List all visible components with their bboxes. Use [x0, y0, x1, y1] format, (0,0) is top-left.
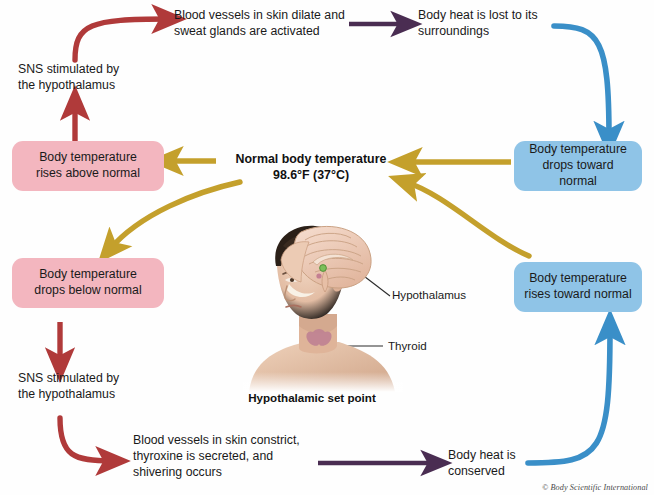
node-heat-conserved-line1: Body heat is	[448, 448, 516, 464]
node-temp-rises-toward-line1: Body temperature	[529, 271, 627, 287]
normal-temp-line2: 98.6°F (37°C)	[273, 167, 349, 183]
node-heat-conserve-line3: shivering occurs	[133, 465, 222, 481]
node-heat-loss-response-line1: Blood vessels in skin dilate and	[174, 8, 345, 24]
node-temp-rises-toward-normal: Body temperature rises toward normal	[514, 262, 642, 312]
node-sns-top: SNS stimulated by the hypothalamus	[18, 62, 158, 94]
normal-temp-line1: Normal body temperature	[236, 151, 387, 167]
arrow-sns-bottom-to-constrict	[60, 418, 112, 461]
node-heat-conserved: Body heat is conserved	[448, 448, 558, 480]
illustration-fade	[243, 342, 403, 392]
head-anatomy-illustration	[243, 222, 403, 392]
node-sns-top-line2: the hypothalamus	[18, 78, 115, 94]
node-temp-drops-below-line2: drops below normal	[34, 283, 141, 299]
label-thyroid: Thyroid	[388, 339, 478, 352]
label-hypothalamus-text: Hypothalamus	[392, 288, 466, 301]
node-heat-lost-line1: Body heat is lost to its	[418, 8, 538, 24]
node-heat-conserved-line2: conserved	[448, 464, 505, 480]
node-temp-drops-below-line1: Body temperature	[39, 267, 137, 283]
pituitary-shape	[316, 273, 321, 278]
illustration-caption: Hypothalamic set point	[222, 391, 402, 404]
arrow-heatconserved-to-temprise-toward	[528, 328, 610, 463]
node-temp-drops-below-normal: Body temperature drops below normal	[12, 258, 164, 308]
node-sns-bottom: SNS stimulated by the hypothalamus	[18, 371, 158, 403]
thermoregulation-diagram: SNS stimulated by the hypothalamus Blood…	[0, 0, 654, 495]
arrow-temprise-toward-to-normal	[406, 182, 529, 256]
node-heat-loss-response: Blood vessels in skin dilate and sweat g…	[174, 8, 352, 40]
node-sns-bottom-line1: SNS stimulated by	[18, 371, 119, 387]
illustration-caption-text: Hypothalamic set point	[248, 391, 376, 404]
node-heat-lost-line2: surroundings	[418, 24, 489, 40]
node-temp-rises-above-normal: Body temperature rises above normal	[12, 141, 164, 191]
node-temp-rises-toward-line2: rises toward normal	[524, 287, 631, 303]
node-heat-conserve-line2: thyroxine is secreted, and	[133, 449, 273, 465]
arrow-sns-to-dilate	[75, 19, 168, 60]
node-sns-bottom-line2: the hypothalamus	[18, 387, 115, 403]
node-heat-lost: Body heat is lost to its surroundings	[418, 8, 558, 40]
node-temp-rises-above-line2: rises above normal	[36, 166, 140, 182]
hypothalamus-highlight	[320, 265, 327, 272]
arrow-heatlost-to-tempdrop	[554, 26, 609, 138]
copyright-credit: © Body Scientific International	[542, 483, 648, 492]
node-temp-drops-toward-line1: Body temperature	[529, 142, 627, 158]
node-sns-top-line1: SNS stimulated by	[18, 62, 119, 78]
node-temp-drops-toward-normal: Body temperature drops toward normal	[514, 141, 642, 191]
node-heat-conserve-line1: Blood vessels in skin constrict,	[133, 433, 300, 449]
label-thyroid-text: Thyroid	[388, 339, 427, 352]
node-heat-conserve-response: Blood vessels in skin constrict, thyroxi…	[133, 433, 323, 481]
label-hypothalamus: Hypothalamus	[392, 288, 502, 301]
node-temp-drops-toward-line2: drops toward normal	[522, 158, 634, 189]
node-normal-body-temperature: Normal body temperature 98.6°F (37°C)	[216, 151, 406, 184]
arrow-normal-to-tempdrop-below	[110, 182, 240, 249]
node-temp-rises-above-line1: Body temperature	[39, 150, 137, 166]
node-heat-loss-response-line2: sweat glands are activated	[174, 24, 320, 40]
